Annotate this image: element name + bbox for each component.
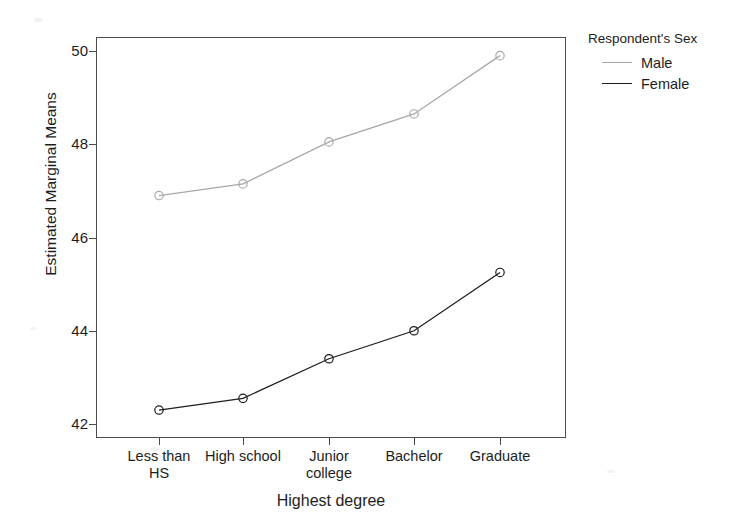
x-tick-mark <box>500 438 501 445</box>
y-tick-label: 44 <box>71 323 88 338</box>
y-tick-mark <box>89 424 96 425</box>
line-chart: 4244464850 Estimated Marginal Means Less… <box>0 0 742 525</box>
series-female <box>155 268 504 414</box>
y-tick-label: 48 <box>71 136 88 151</box>
y-tick-label: 46 <box>71 230 88 245</box>
x-tick-mark <box>243 438 244 445</box>
y-tick-mark <box>89 144 96 145</box>
y-tick-label: 42 <box>71 416 88 431</box>
data-point-marker <box>496 51 504 59</box>
x-axis-title: Highest degree <box>96 492 566 510</box>
legend-items: MaleFemale <box>588 52 738 94</box>
legend-title: Respondent's Sex <box>588 31 738 46</box>
x-tick-mark <box>329 438 330 445</box>
scan-speckle <box>34 18 43 22</box>
y-tick-mark <box>89 238 96 239</box>
series-line <box>159 272 500 410</box>
legend-item-label: Female <box>641 76 689 92</box>
legend-line-swatch <box>602 62 632 63</box>
legend-item: Female <box>588 73 738 94</box>
x-tick-label-line2: college <box>277 465 381 482</box>
legend-line-swatch <box>602 83 632 84</box>
scan-speckle <box>30 327 36 330</box>
y-axis-title: Estimated Marginal Means <box>42 74 60 294</box>
series-line <box>159 56 500 196</box>
y-tick-mark <box>89 331 96 332</box>
legend: Respondent's Sex MaleFemale <box>588 31 738 94</box>
plot-series-canvas <box>96 37 566 438</box>
x-tick-label-line1: Graduate <box>448 448 552 465</box>
legend-item: Male <box>588 52 738 73</box>
x-tick-label: Graduate <box>448 448 552 465</box>
scan-speckle <box>607 470 615 473</box>
x-tick-mark <box>414 438 415 445</box>
legend-item-label: Male <box>641 55 672 71</box>
x-tick-mark <box>159 438 160 445</box>
y-tick-label: 50 <box>71 43 88 58</box>
x-tick-label-line2: HS <box>107 465 211 482</box>
y-tick-mark <box>89 51 96 52</box>
series-male <box>155 51 504 199</box>
